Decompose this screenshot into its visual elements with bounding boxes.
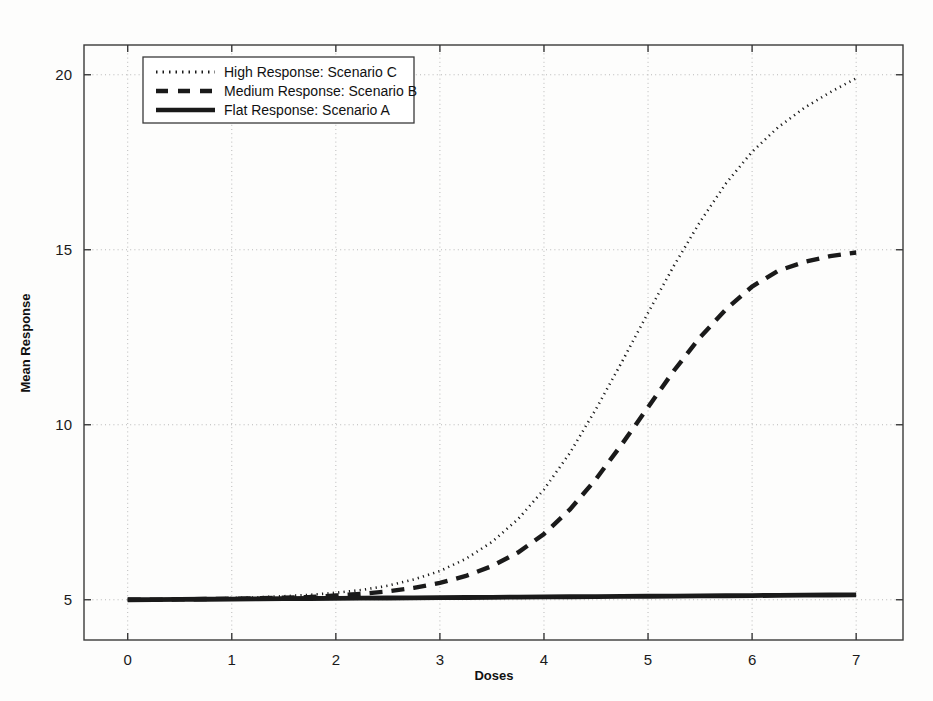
y-axis-title: Mean Response	[18, 294, 33, 393]
legend-item-label: High Response: Scenario C	[224, 64, 397, 80]
chart-legend: High Response: Scenario CMedium Response…	[143, 57, 417, 123]
x-tick-label: 0	[124, 651, 132, 668]
x-tick-label: 2	[332, 651, 340, 668]
plot-frame	[84, 45, 903, 640]
x-tick-label: 5	[644, 651, 652, 668]
y-tick-label: 15	[55, 241, 72, 258]
series-line-dashed	[128, 253, 856, 600]
x-tick-label: 7	[852, 651, 860, 668]
x-axis-title: Doses	[474, 668, 513, 683]
axes-frame-group	[84, 45, 903, 640]
line-chart: 01234567 5101520 Doses Mean Response Hig…	[0, 0, 933, 701]
y-tick-labels-group: 5101520	[55, 66, 72, 608]
x-tick-label: 6	[748, 651, 756, 668]
x-tick-label: 3	[436, 651, 444, 668]
series-line-dotted	[128, 78, 856, 600]
tick-marks-group	[84, 45, 903, 640]
y-tick-label: 20	[55, 66, 72, 83]
legend-item-label: Medium Response: Scenario B	[224, 83, 417, 99]
y-tick-label: 10	[55, 416, 72, 433]
x-tick-labels-group: 01234567	[124, 651, 861, 668]
figure-canvas: 01234567 5101520 Doses Mean Response Hig…	[0, 0, 933, 701]
gridlines-group	[84, 45, 903, 640]
x-tick-label: 1	[228, 651, 236, 668]
x-tick-label: 4	[540, 651, 548, 668]
data-series-group	[128, 78, 856, 600]
series-line-solid	[128, 595, 856, 600]
legend-item-label: Flat Response: Scenario A	[224, 102, 390, 118]
y-tick-label: 5	[64, 591, 72, 608]
